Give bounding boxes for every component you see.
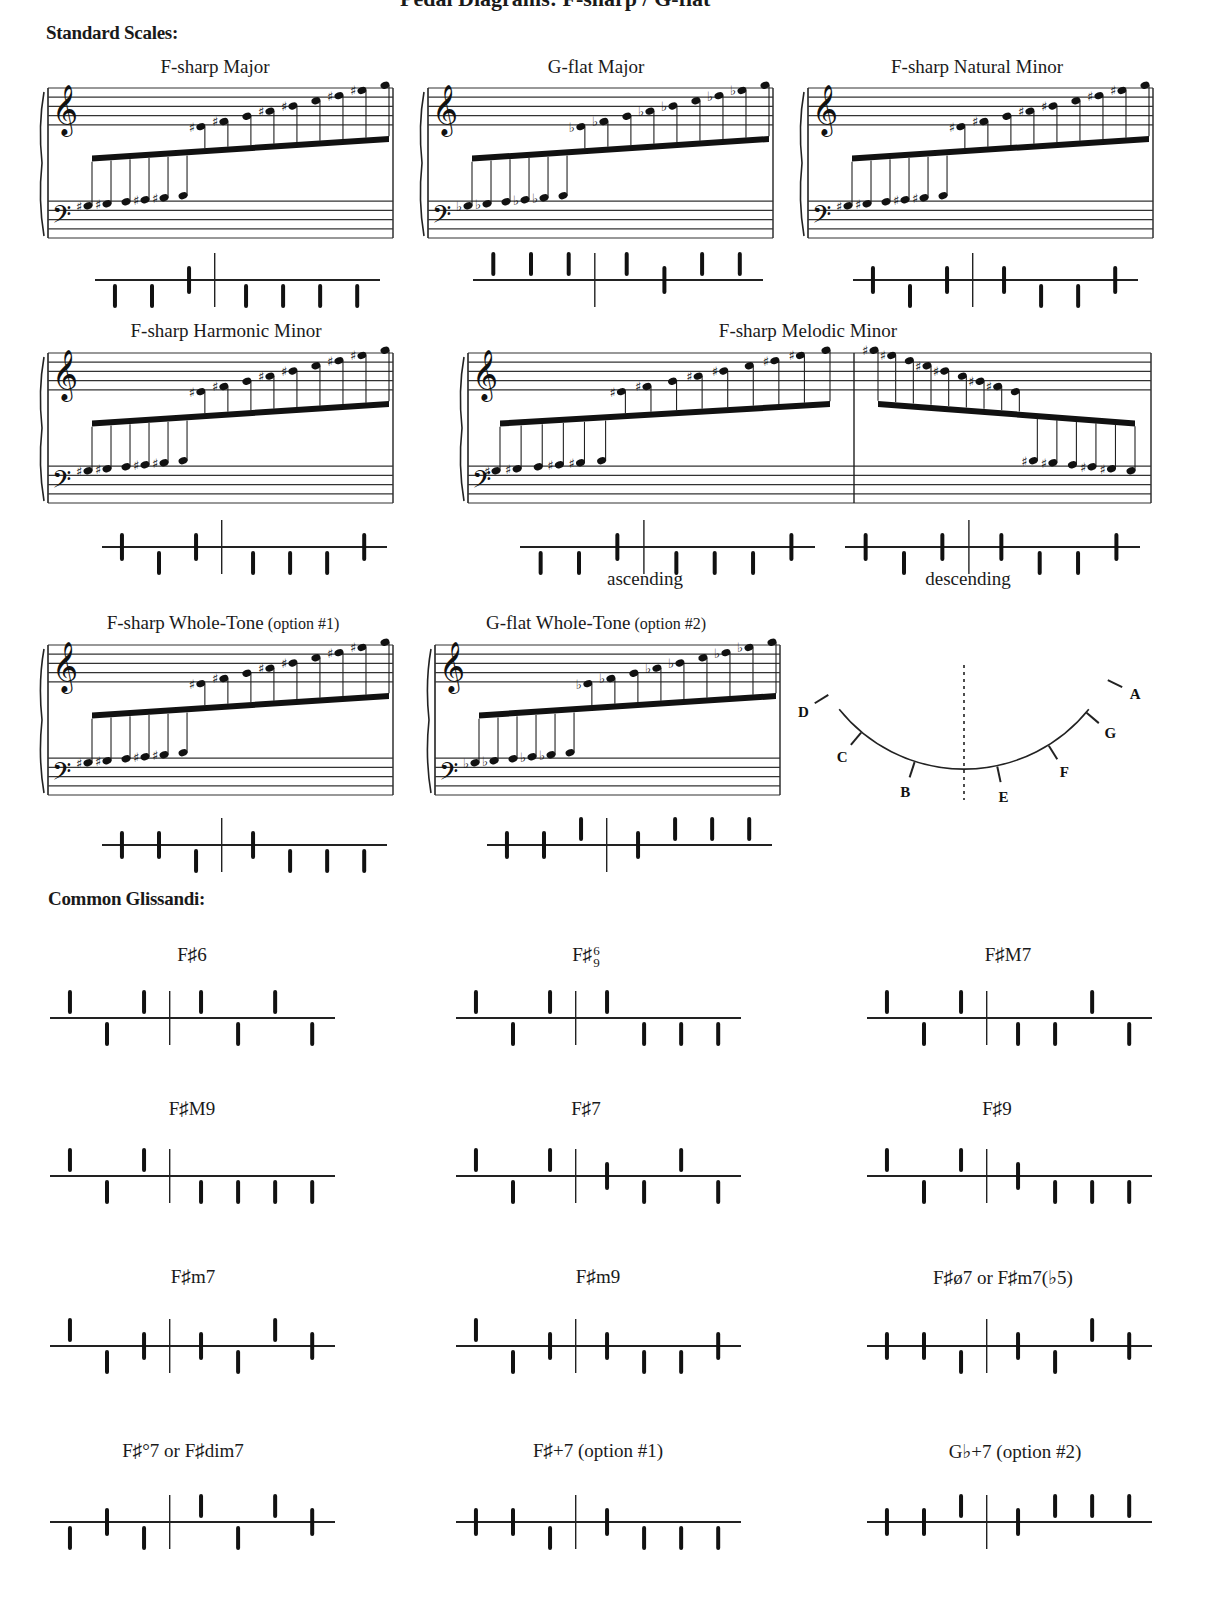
brace bbox=[40, 92, 44, 236]
chord-label-fm9: F♯m9 bbox=[576, 1266, 620, 1288]
sharp-icon: ♯ bbox=[95, 197, 101, 212]
sharp-icon: ♯ bbox=[350, 83, 356, 98]
sharp-icon: ♯ bbox=[189, 677, 195, 692]
sharp-icon: ♯ bbox=[1099, 462, 1105, 477]
sharp-icon: ♯ bbox=[986, 379, 992, 394]
scale-title-fsharp-major: F-sharp Major bbox=[160, 56, 269, 78]
treble-clef-icon: 𝄞 bbox=[812, 83, 838, 137]
treble-clef-icon: 𝄞 bbox=[52, 348, 78, 402]
pedal-label-c: C bbox=[837, 749, 848, 765]
sharp-icon: ♯ bbox=[949, 120, 955, 135]
bass-clef-icon: 𝄢 bbox=[52, 200, 71, 235]
chord-label-f9: F♯9 bbox=[982, 1098, 1012, 1120]
sharp-icon: ♯ bbox=[609, 385, 615, 400]
pedal-label-g: G bbox=[1105, 725, 1117, 741]
sharp-icon: ♯ bbox=[133, 458, 139, 473]
common-glissandi-heading: Common Glissandi: bbox=[48, 888, 205, 910]
brace bbox=[427, 649, 431, 793]
sharp-icon: ♯ bbox=[95, 462, 101, 477]
sharp-icon: ♯ bbox=[281, 99, 287, 114]
pedal-diagram-fm7 bbox=[40, 1311, 345, 1381]
sharp-icon: ♯ bbox=[350, 348, 356, 363]
chord-label-fM7: F♯M7 bbox=[985, 944, 1031, 966]
sharp-icon: ♯ bbox=[133, 750, 139, 765]
pedal-diagram-faug7 bbox=[446, 1487, 751, 1557]
scale-title-gflat-whole-tone: G-flat Whole-Tone (option #2) bbox=[486, 612, 706, 634]
brace bbox=[800, 92, 804, 236]
grand-staff-fsharp-harmonic-minor: 𝄞𝄢♯♯♯♯♯♯♯♯♯♯ bbox=[36, 347, 401, 507]
sharp-icon: ♯ bbox=[350, 640, 356, 655]
bass-clef-icon: 𝄢 bbox=[52, 465, 71, 500]
sharp-icon: ♯ bbox=[212, 671, 218, 686]
grand-staff-gflat-whole-tone: 𝄞𝄢♭♭♭♭♭♭♭♭♭♭ bbox=[423, 639, 788, 799]
flat-icon: ♭ bbox=[707, 89, 713, 104]
beam bbox=[479, 693, 776, 719]
sharp-icon: ♯ bbox=[836, 199, 842, 214]
sharp-icon: ♯ bbox=[972, 114, 978, 129]
beam bbox=[852, 136, 1149, 162]
sharp-icon: ♯ bbox=[327, 354, 333, 369]
chord-label-fhalfdim7: F♯ø7 or F♯m7(♭5) bbox=[933, 1266, 1073, 1289]
sharp-icon: ♯ bbox=[893, 193, 899, 208]
chord-label-gbaug7: G♭+7 (option #2) bbox=[949, 1440, 1082, 1463]
beam bbox=[92, 401, 389, 427]
pedal-diagram-f9 bbox=[857, 1141, 1162, 1211]
sharp-icon: ♯ bbox=[1087, 89, 1093, 104]
bass-clef-icon: 𝄢 bbox=[812, 200, 831, 235]
sharp-icon: ♯ bbox=[76, 756, 82, 771]
sharp-icon: ♯ bbox=[1110, 83, 1116, 98]
sharp-icon: ♯ bbox=[327, 89, 333, 104]
flat-icon: ♭ bbox=[576, 677, 582, 692]
flat-icon: ♭ bbox=[730, 83, 736, 98]
beam bbox=[472, 136, 769, 162]
bass-clef-icon: 𝄢 bbox=[439, 757, 458, 792]
pedal-diagram-f6 bbox=[40, 983, 345, 1053]
sharp-icon: ♯ bbox=[258, 104, 264, 119]
flat-icon: ♭ bbox=[714, 646, 720, 661]
sharp-icon: ♯ bbox=[76, 464, 82, 479]
flat-icon: ♭ bbox=[645, 661, 651, 676]
sharp-icon: ♯ bbox=[505, 462, 511, 477]
pedal-diagram-fsharp-major bbox=[85, 245, 390, 315]
scale-title-fsharp-whole-tone: F-sharp Whole-Tone (option #1) bbox=[107, 612, 340, 634]
scale-title-gflat-major: G-flat Major bbox=[548, 56, 645, 78]
flat-icon: ♭ bbox=[661, 99, 667, 114]
sharp-icon: ♯ bbox=[855, 197, 861, 212]
chord-label-f69: F♯69 bbox=[572, 944, 600, 969]
treble-clef-icon: 𝄞 bbox=[439, 640, 465, 694]
sharp-icon: ♯ bbox=[912, 191, 918, 206]
sharp-icon: ♯ bbox=[189, 385, 195, 400]
descending-label: descending bbox=[925, 568, 1010, 590]
pedal-diagram-gbaug7 bbox=[857, 1487, 1162, 1557]
sharp-icon: ♯ bbox=[1021, 454, 1027, 469]
flat-icon: ♭ bbox=[463, 756, 469, 771]
sharp-icon: ♯ bbox=[968, 374, 974, 389]
chord-label-fm7: F♯m7 bbox=[171, 1266, 215, 1288]
flat-icon: ♭ bbox=[539, 748, 545, 763]
brace bbox=[40, 357, 44, 501]
treble-clef-icon: 𝄞 bbox=[432, 83, 458, 137]
flat-icon: ♭ bbox=[569, 120, 575, 135]
grand-staff-fsharp-melodic-minor: 𝄞𝄢♯♯♯♯♯♯♯♯♯♯♯♯♯♯♯♯♯♯♯♯ bbox=[456, 347, 1159, 507]
sharp-icon: ♯ bbox=[712, 364, 718, 379]
flat-icon: ♭ bbox=[668, 656, 674, 671]
bass-clef-icon: 𝄢 bbox=[432, 200, 451, 235]
pedal-diagram-f7 bbox=[446, 1141, 751, 1211]
chord-label-fM9: F♯M9 bbox=[169, 1098, 215, 1120]
grand-staff-fsharp-major: 𝄞𝄢♯♯♯♯♯♯♯♯♯♯ bbox=[36, 82, 401, 242]
bass-clef-icon: 𝄢 bbox=[52, 757, 71, 792]
pedal-diagram-fsharp-whole-tone bbox=[92, 810, 397, 880]
pedal-label-b: B bbox=[900, 784, 910, 800]
pedal-arc: DCBEFGA bbox=[820, 650, 1140, 810]
flat-icon: ♭ bbox=[599, 671, 605, 686]
pedal-diagram-fdim7 bbox=[40, 1487, 345, 1557]
sharp-icon: ♯ bbox=[281, 656, 287, 671]
sharp-icon: ♯ bbox=[788, 348, 794, 363]
flat-icon: ♭ bbox=[532, 191, 538, 206]
pedal-diagram-fsharp-harmonic-minor bbox=[92, 512, 397, 582]
sharp-icon: ♯ bbox=[1018, 104, 1024, 119]
sharp-icon: ♯ bbox=[152, 456, 158, 471]
sharp-icon: ♯ bbox=[212, 114, 218, 129]
sharp-icon: ♯ bbox=[152, 748, 158, 763]
pedal-diagram-gflat-major bbox=[463, 245, 773, 315]
